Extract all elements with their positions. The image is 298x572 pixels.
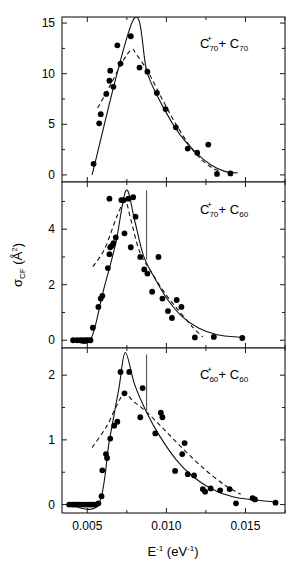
data-point bbox=[169, 315, 175, 321]
data-point bbox=[214, 171, 220, 177]
data-point bbox=[91, 161, 97, 167]
panel-1-y-tick-labels: 051015 bbox=[42, 16, 56, 182]
y-axis-title-group: σCF (Å2) bbox=[10, 243, 27, 287]
data-point bbox=[105, 265, 111, 271]
y-tick-label: 0 bbox=[48, 333, 55, 347]
y-tick-label: 4 bbox=[48, 222, 55, 236]
x-axis-tick-labels: 0.0050.0100.015 bbox=[72, 519, 261, 533]
data-point bbox=[211, 334, 217, 340]
data-point bbox=[122, 230, 128, 236]
data-point bbox=[99, 293, 105, 299]
data-point bbox=[185, 471, 191, 477]
data-point bbox=[107, 251, 113, 257]
data-point bbox=[111, 240, 117, 246]
data-point bbox=[179, 304, 185, 310]
data-point bbox=[194, 150, 200, 156]
x-tick-label: 0.015 bbox=[230, 519, 260, 533]
data-point bbox=[239, 335, 245, 341]
panel-2-group: 024 C70+ + C60 bbox=[48, 182, 285, 348]
data-point bbox=[90, 325, 96, 331]
data-point bbox=[156, 254, 162, 260]
data-point bbox=[137, 254, 143, 260]
figure-container: 051015 C70+ + C70 024 C70+ + C60 012 C bbox=[0, 0, 298, 572]
data-point bbox=[137, 65, 143, 71]
x-tick-label: 0.005 bbox=[72, 519, 102, 533]
data-point bbox=[165, 308, 171, 314]
data-point bbox=[130, 194, 136, 200]
data-point bbox=[137, 414, 143, 420]
data-point bbox=[174, 297, 180, 303]
data-point bbox=[103, 451, 109, 457]
data-point bbox=[118, 369, 124, 375]
data-point bbox=[133, 214, 139, 220]
data-point bbox=[98, 111, 104, 117]
panel-2-y-tick-labels: 024 bbox=[48, 222, 55, 347]
panel-2-plot-area bbox=[62, 182, 285, 348]
y-tick-label: 2 bbox=[48, 278, 55, 292]
data-point bbox=[185, 146, 191, 152]
data-point bbox=[99, 493, 105, 499]
data-point bbox=[145, 69, 151, 75]
data-point bbox=[191, 473, 197, 479]
panel-1-frame bbox=[62, 17, 285, 182]
data-point bbox=[118, 61, 124, 67]
x-tick-label: 0.010 bbox=[151, 519, 181, 533]
data-point bbox=[107, 68, 113, 74]
data-point bbox=[145, 271, 151, 277]
panel-1-plot-area bbox=[62, 17, 285, 182]
data-point bbox=[113, 235, 119, 241]
x-axis-title: E-1 (eV-1) bbox=[147, 544, 198, 559]
data-point bbox=[205, 142, 211, 148]
data-point bbox=[107, 78, 113, 84]
data-point bbox=[95, 304, 101, 310]
y-tick-label: 10 bbox=[42, 67, 56, 81]
data-point bbox=[114, 42, 120, 48]
data-point bbox=[173, 124, 179, 130]
panel-3-plot-area bbox=[62, 348, 285, 513]
y-tick-label: 2 bbox=[48, 368, 55, 382]
data-point bbox=[252, 497, 258, 503]
panel-3-frame bbox=[62, 348, 285, 513]
data-point bbox=[128, 244, 134, 250]
data-point bbox=[192, 335, 198, 341]
data-point bbox=[103, 91, 109, 97]
data-point bbox=[126, 369, 132, 375]
data-point bbox=[99, 467, 105, 473]
data-point bbox=[140, 385, 146, 391]
data-point bbox=[107, 196, 113, 202]
data-point bbox=[128, 33, 134, 39]
data-point bbox=[233, 500, 239, 506]
panel-3-group: 012 C60+ + C60 bbox=[48, 348, 285, 513]
y-tick-label: 1 bbox=[48, 433, 55, 447]
data-point bbox=[122, 390, 128, 396]
data-point bbox=[96, 120, 102, 126]
data-point bbox=[179, 451, 185, 457]
data-point bbox=[172, 468, 178, 474]
data-point bbox=[202, 489, 208, 495]
data-point bbox=[208, 486, 214, 492]
scientific-figure: 051015 C70+ + C70 024 C70+ + C60 012 C bbox=[0, 0, 298, 572]
data-point bbox=[182, 440, 188, 446]
data-point bbox=[114, 419, 120, 425]
data-point bbox=[111, 84, 117, 90]
data-point bbox=[154, 90, 160, 96]
data-point bbox=[273, 500, 279, 506]
panel-3-y-tick-labels: 012 bbox=[48, 368, 55, 511]
panel-1-group: 051015 C70+ + C70 bbox=[42, 16, 285, 182]
y-tick-label: 0 bbox=[48, 168, 55, 182]
y-tick-label: 5 bbox=[48, 117, 55, 131]
data-point bbox=[160, 296, 166, 302]
data-point bbox=[227, 486, 233, 492]
y-axis-title: σCF (Å2) bbox=[10, 243, 27, 287]
data-point bbox=[163, 106, 169, 112]
data-point bbox=[217, 487, 223, 493]
data-point bbox=[152, 431, 158, 437]
data-point bbox=[228, 170, 234, 176]
data-point bbox=[149, 289, 155, 295]
data-point bbox=[95, 500, 101, 506]
data-point bbox=[107, 436, 113, 442]
data-point bbox=[160, 414, 166, 420]
data-point bbox=[88, 337, 94, 343]
y-tick-label: 15 bbox=[42, 16, 56, 30]
y-tick-label: 0 bbox=[48, 498, 55, 512]
